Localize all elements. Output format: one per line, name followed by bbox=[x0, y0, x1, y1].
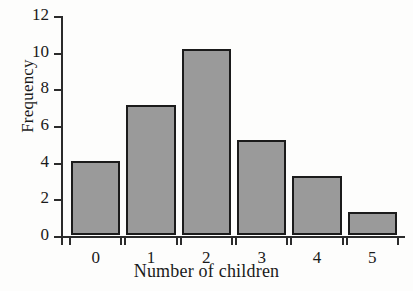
bar-3 bbox=[237, 140, 286, 235]
x-tick-0-left bbox=[69, 237, 71, 245]
y-tick-label-10: 10 bbox=[32, 43, 49, 61]
y-tick-12: 12 bbox=[54, 16, 62, 18]
y-tick-8: 8 bbox=[54, 89, 62, 91]
y-tick-4: 4 bbox=[54, 163, 62, 165]
x-tick-3-left bbox=[235, 237, 237, 245]
x-tick-0-right bbox=[120, 237, 122, 245]
y-axis-title: Frequency bbox=[18, 16, 38, 176]
x-tick-5-right bbox=[397, 237, 399, 245]
x-axis-title: Number of children bbox=[0, 261, 413, 282]
bar-1 bbox=[126, 105, 175, 235]
x-tick-4-left bbox=[290, 237, 292, 245]
bar-0 bbox=[71, 161, 120, 235]
x-tick-1-left bbox=[124, 237, 126, 245]
bar-2 bbox=[182, 49, 231, 235]
x-tick-3-right bbox=[286, 237, 288, 245]
y-tick-label-6: 6 bbox=[41, 116, 50, 134]
x-tick-4-right bbox=[342, 237, 344, 245]
y-tick-2: 2 bbox=[54, 199, 62, 201]
y-tick-label-12: 12 bbox=[32, 6, 49, 24]
chart-screenshot: Frequency 024681012 012345 Number of chi… bbox=[0, 0, 413, 291]
y-tick-6: 6 bbox=[54, 126, 62, 128]
x-tick-origin bbox=[61, 237, 63, 245]
plot-area: 024681012 012345 bbox=[61, 16, 405, 237]
x-tick-5-left bbox=[346, 237, 348, 245]
x-tick-1-right bbox=[176, 237, 178, 245]
y-tick-label-0: 0 bbox=[41, 226, 50, 244]
x-tick-2-right bbox=[231, 237, 233, 245]
x-tick-2-left bbox=[180, 237, 182, 245]
y-tick-label-4: 4 bbox=[41, 153, 50, 171]
y-tick-label-2: 2 bbox=[41, 189, 50, 207]
y-tick-10: 10 bbox=[54, 53, 62, 55]
bar-4 bbox=[292, 176, 341, 235]
bar-5 bbox=[348, 212, 397, 235]
x-axis-line bbox=[61, 236, 405, 238]
y-tick-label-8: 8 bbox=[41, 79, 50, 97]
